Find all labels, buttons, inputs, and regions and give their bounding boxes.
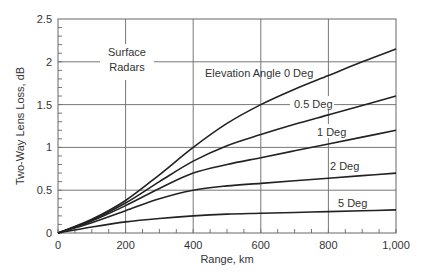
y-tick: 0.5 (37, 184, 52, 196)
x-tick: 400 (184, 239, 202, 251)
x-tick: 200 (116, 239, 134, 251)
y-tick: 1 (46, 141, 52, 153)
surface-radars-label-1: Surface (108, 46, 146, 58)
x-tick: 1,000 (382, 239, 410, 251)
series-label-5deg: 5 Deg (338, 197, 367, 209)
x-tick: 600 (252, 239, 270, 251)
series-label-05deg: 0.5 Deg (294, 98, 333, 110)
x-tick: 800 (319, 239, 337, 251)
series-label-0deg: Elevation Angle 0 Deg (205, 67, 313, 79)
chart: 00.511.522.5 02004006008001,000 Surface … (0, 0, 425, 278)
y-tick: 2 (46, 56, 52, 68)
series-label-1deg: 1 Deg (317, 126, 346, 138)
x-axis-label: Range, km (200, 253, 253, 265)
y-tick: 1.5 (37, 99, 52, 111)
y-tick: 0 (46, 227, 52, 239)
y-tick-labels: 00.511.522.5 (37, 13, 52, 239)
x-tick: 0 (55, 239, 61, 251)
y-tick: 2.5 (37, 13, 52, 25)
surface-radars-label-2: Radars (109, 61, 145, 73)
y-axis-label: Two-Way Lens Loss, dB (14, 67, 26, 185)
series-label-2deg: 2 Deg (330, 160, 359, 172)
x-tick-labels: 02004006008001,000 (55, 239, 410, 251)
